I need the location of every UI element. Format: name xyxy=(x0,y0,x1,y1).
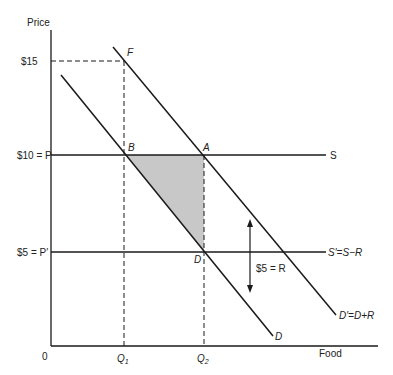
price-label-5: $5 = P′ xyxy=(17,247,48,258)
x-axis-label: Food xyxy=(319,348,342,359)
quantity-label-q2: Q2 xyxy=(197,353,209,365)
point-label-f: F xyxy=(127,47,134,58)
supply-shifted-label: S′=S−R xyxy=(328,247,362,258)
origin-label: 0 xyxy=(42,351,48,362)
price-label-15: $15 xyxy=(21,56,38,67)
point-label-d: D xyxy=(194,254,201,265)
demand-shifted-label: D′=D+R xyxy=(339,310,374,321)
price-label-10: $10 = P xyxy=(17,150,52,161)
point-label-a: A xyxy=(202,142,210,153)
subsidy-label: $5 = R xyxy=(256,263,286,274)
quantity-label-q1: Q1 xyxy=(117,353,129,365)
subsidy-diagram: Price Food 0 $15 $10 = P $5 = P′ Q1 Q2 F… xyxy=(0,0,393,375)
arrow-head-up-icon xyxy=(247,219,253,227)
supply-label: S xyxy=(330,150,337,161)
point-label-b: B xyxy=(128,142,135,153)
demand-line xyxy=(61,75,273,336)
y-axis-label: Price xyxy=(27,17,50,28)
arrow-head-down-icon xyxy=(247,285,253,293)
demand-label: D xyxy=(275,331,282,342)
